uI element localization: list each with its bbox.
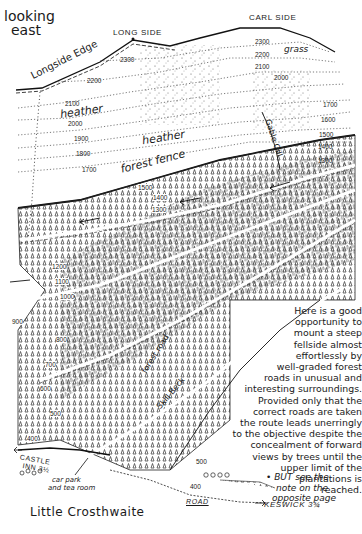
contour-label: 1400 <box>318 143 332 150</box>
note-line: opposite page <box>266 493 362 504</box>
description-line: opportunity to <box>184 316 362 327</box>
orientation-line-1: looking <box>4 9 55 23</box>
description-line: correct roads are taken <box>184 406 362 417</box>
car-park-line-2: and tea room <box>48 484 95 492</box>
contour-label: 1500 <box>138 184 152 191</box>
note-line: note on the <box>266 483 362 494</box>
village-label: Little Crosthwaite <box>30 505 145 519</box>
contour-label: 1800 <box>76 150 90 157</box>
contour-label: 1600 <box>321 116 335 123</box>
note-line: • BUT see the <box>266 472 362 483</box>
description-line: interesting surroundings. <box>184 383 362 394</box>
contour-label: 1300 <box>152 206 166 213</box>
contour-label: 1700 <box>323 101 337 108</box>
contour-label: 400 <box>27 435 38 442</box>
contour-label: 900 <box>12 318 23 325</box>
contour-label: 2000 <box>274 74 288 81</box>
carpark-pointer <box>75 458 88 475</box>
contour-label: 1400 <box>153 194 167 201</box>
contour-label: 1000 <box>60 293 74 300</box>
description-line: well-graded forest <box>184 361 362 372</box>
description-line: fellside almost <box>184 339 362 350</box>
description-line: roads in unusual and <box>184 372 362 383</box>
description-line: Provided only that the <box>184 395 362 406</box>
contour-label: 1300 <box>318 157 332 164</box>
summit-carl-side: CARL SIDE <box>249 13 296 22</box>
description-line: concealment of forward <box>184 439 362 450</box>
description-line: views by trees until the <box>184 451 362 462</box>
grass-label: grass <box>284 44 308 54</box>
contour-label: 600 <box>40 385 51 392</box>
scree-area <box>140 45 220 125</box>
contour-label: 1200 <box>52 263 66 270</box>
car-park-label: car park and tea room <box>48 476 95 492</box>
contour-label: 2300 <box>255 38 269 45</box>
description-line: effortlessly by <box>184 350 362 361</box>
description-text: Here is a good opportunity to mount a st… <box>184 305 362 495</box>
contour-label: 1900 <box>74 135 88 142</box>
orientation-line-2: east <box>4 23 55 37</box>
description-line: mount a steep <box>184 327 362 338</box>
contour-label: 700 <box>45 361 56 368</box>
orientation-label: looking east <box>4 9 55 37</box>
description-line: the route leads unerringly <box>184 417 362 428</box>
contour-label: 2100 <box>255 63 269 70</box>
contour-label: 2000 <box>68 120 82 127</box>
contour-label: 1500 <box>319 131 333 138</box>
contour-label: 2300 <box>120 56 134 63</box>
note-text: • BUT see the note on the opposite page <box>266 472 362 504</box>
contour-label: 1700 <box>82 166 96 173</box>
contour-label: 2100 <box>65 100 79 107</box>
car-park-line-1: car park <box>48 476 95 484</box>
contour-label: 2200 <box>255 51 269 58</box>
arrow-icon <box>14 447 22 453</box>
contour-label: 1100 <box>55 278 69 285</box>
description-line: to the objective despite the <box>184 428 362 439</box>
contour-label: 800 <box>56 336 67 343</box>
summit-long-side: LONG SIDE <box>113 28 162 37</box>
contour-label: 2200 <box>87 77 101 84</box>
road-label: ROAD <box>186 498 209 505</box>
contour-label: 500 <box>50 410 61 417</box>
description-line: Here is a good <box>184 305 362 316</box>
